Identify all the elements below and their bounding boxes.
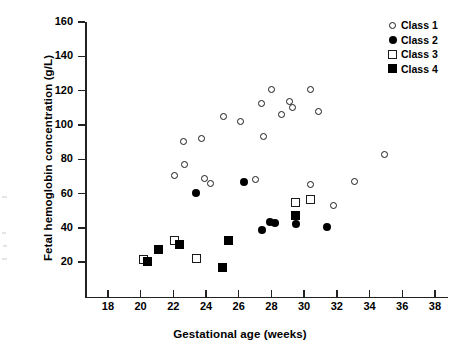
data-point <box>180 138 187 145</box>
scan-artifact <box>2 196 7 198</box>
y-tick-label: 60 <box>33 187 73 199</box>
open-circle-icon <box>386 22 399 29</box>
data-point <box>181 161 188 168</box>
x-tick <box>271 290 272 297</box>
y-axis-line <box>85 22 87 298</box>
data-point <box>315 108 322 115</box>
data-point <box>252 176 259 183</box>
scatter-chart: Fetal hemoglobin concentration (g/L) Ges… <box>0 0 475 353</box>
x-tick <box>402 290 403 297</box>
data-point <box>271 219 279 227</box>
x-tick <box>369 290 370 297</box>
data-point <box>289 104 296 111</box>
x-tick-label: 22 <box>158 300 188 312</box>
x-tick <box>140 290 141 297</box>
data-point <box>224 236 233 245</box>
scan-artifact <box>3 245 7 247</box>
data-point <box>143 257 152 266</box>
data-point <box>306 195 315 204</box>
x-tick-label: 28 <box>256 300 286 312</box>
data-point <box>278 111 285 118</box>
y-tick-label: 120 <box>33 84 73 96</box>
data-point <box>268 86 275 93</box>
x-tick-label: 38 <box>420 300 450 312</box>
legend-label: Class 3 <box>401 48 438 60</box>
legend-label: Class 4 <box>401 63 438 75</box>
data-point <box>192 189 200 197</box>
y-tick <box>78 193 85 194</box>
y-tick-label: 20 <box>33 255 73 267</box>
data-point <box>307 181 314 188</box>
y-tick-label: 80 <box>33 152 73 164</box>
data-point <box>258 100 265 107</box>
x-tick <box>303 290 304 297</box>
x-tick-label: 34 <box>355 300 385 312</box>
data-point <box>292 220 300 228</box>
open-square-icon <box>386 50 399 59</box>
x-tick <box>173 290 174 297</box>
scan-artifact <box>2 232 6 234</box>
y-tick <box>78 227 85 228</box>
data-point <box>218 263 227 272</box>
y-tick <box>78 90 85 91</box>
data-point <box>381 151 388 158</box>
filled-circle-icon <box>386 36 399 44</box>
scan-artifact <box>2 258 7 260</box>
y-tick <box>78 261 85 262</box>
data-point <box>198 135 205 142</box>
x-tick-label: 32 <box>322 300 352 312</box>
y-tick <box>78 124 85 125</box>
y-tick-label: 40 <box>33 221 73 233</box>
x-tick <box>336 290 337 297</box>
data-point <box>154 245 163 254</box>
data-point <box>171 172 178 179</box>
legend-item-class-1[interactable]: Class 1 <box>386 18 474 33</box>
x-tick <box>238 290 239 297</box>
data-point <box>330 202 337 209</box>
filled-square-icon <box>386 64 399 73</box>
y-tick <box>78 21 85 22</box>
y-tick-label: 100 <box>33 118 73 130</box>
x-tick-label: 20 <box>126 300 156 312</box>
data-point <box>260 133 267 140</box>
data-point <box>323 223 331 231</box>
legend-item-class-3[interactable]: Class 3 <box>386 47 474 62</box>
data-point <box>207 180 214 187</box>
x-tick <box>107 290 108 297</box>
data-point <box>175 240 184 249</box>
legend-item-class-4[interactable]: Class 4 <box>386 62 474 77</box>
x-tick-label: 30 <box>289 300 319 312</box>
x-tick <box>205 290 206 297</box>
data-point <box>291 198 300 207</box>
x-tick <box>434 290 435 297</box>
x-axis-label: Gestational age (weeks) <box>85 328 395 340</box>
data-point <box>307 86 314 93</box>
legend-item-class-2[interactable]: Class 2 <box>386 33 474 48</box>
data-point <box>220 113 227 120</box>
y-tick <box>78 56 85 57</box>
data-point <box>192 254 201 263</box>
legend-label: Class 2 <box>401 34 438 46</box>
data-point <box>240 178 248 186</box>
x-tick-label: 36 <box>387 300 417 312</box>
chart-legend: Class 1Class 2Class 3Class 4 <box>386 18 474 76</box>
y-tick-label: 140 <box>33 49 73 61</box>
y-tick-label: 160 <box>33 15 73 27</box>
x-tick-label: 24 <box>191 300 221 312</box>
data-point <box>291 211 300 220</box>
x-tick-label: 18 <box>93 300 123 312</box>
legend-label: Class 1 <box>401 19 438 31</box>
y-tick <box>78 159 85 160</box>
data-point <box>258 226 266 234</box>
data-point <box>351 178 358 185</box>
x-tick-label: 26 <box>224 300 254 312</box>
data-point <box>237 118 244 125</box>
